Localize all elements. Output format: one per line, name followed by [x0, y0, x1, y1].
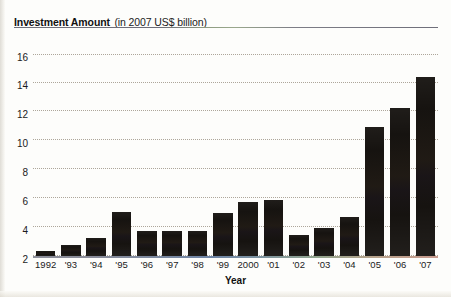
bar-03 [314, 228, 334, 256]
x-axis-line [33, 256, 438, 258]
xtick-label-04: '04 [337, 259, 362, 270]
investment-amount-bar-chart: Investment Amount (in 2007 US$ billion) … [0, 0, 451, 297]
bar-06 [390, 108, 410, 256]
bar-01 [264, 200, 284, 256]
bar-2000 [238, 202, 258, 256]
bars-layer [33, 32, 438, 257]
xtick-label-06: '06 [387, 259, 412, 270]
xtick-label-2000: 2000 [236, 259, 261, 270]
bar-07 [416, 77, 436, 256]
bar-93 [61, 245, 81, 256]
ytick-label-10: 10 [2, 138, 28, 149]
ytick-label-14: 14 [2, 80, 28, 91]
chart-title-block: Investment Amount (in 2007 US$ billion) [14, 12, 438, 28]
ytick-label-4: 4 [2, 225, 28, 236]
bar-94 [86, 238, 106, 256]
xtick-label-05: '05 [362, 259, 387, 270]
xtick-label-98: '98 [185, 259, 210, 270]
bar-99 [213, 213, 233, 256]
xtick-label-03: '03 [311, 259, 336, 270]
xtick-label-99: '99 [210, 259, 235, 270]
ytick-label-2: 2 [2, 254, 28, 265]
bar-04 [340, 217, 360, 256]
xtick-label-95: '95 [109, 259, 134, 270]
bar-95 [112, 212, 132, 256]
x-axis-title: Year [33, 275, 438, 286]
xtick-label-01: '01 [261, 259, 286, 270]
title-divider [14, 27, 438, 28]
bar-97 [162, 231, 182, 256]
bar-96 [137, 231, 157, 256]
x-axis-labels: 1992'93'94'95'96'97'98'992000'01'02'03'0… [33, 259, 438, 273]
xtick-label-94: '94 [84, 259, 109, 270]
bar-05 [365, 127, 385, 256]
xtick-label-1992: 1992 [33, 259, 58, 270]
xtick-label-96: '96 [134, 259, 159, 270]
bar-02 [289, 235, 309, 257]
xtick-label-93: '93 [58, 259, 83, 270]
xtick-label-97: '97 [160, 259, 185, 270]
bar-98 [188, 231, 208, 256]
ytick-label-8: 8 [2, 167, 28, 178]
xtick-label-02: '02 [286, 259, 311, 270]
ytick-label-16: 16 [2, 52, 28, 63]
scan-edge-bottom [0, 291, 451, 297]
ytick-label-6: 6 [2, 196, 28, 207]
xtick-label-07: '07 [413, 259, 438, 270]
ytick-label-12: 12 [2, 109, 28, 120]
